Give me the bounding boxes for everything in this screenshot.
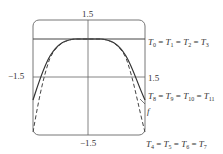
series-f <box>33 39 145 100</box>
legend-f: f <box>147 106 150 116</box>
series-t4-t7 <box>33 39 145 132</box>
plot-frame <box>33 20 145 135</box>
x-right-tick-label: 1.5 <box>148 73 159 83</box>
x-left-tick-label: −1.5 <box>8 71 24 81</box>
plot-area <box>0 0 223 154</box>
legend-t0-t3: T0 = T1 = T2 = T3 <box>148 37 209 50</box>
legend-t4-t7: T4 = T5 = T6 = T7 <box>146 139 207 152</box>
y-bottom-tick-label: −1.5 <box>80 138 96 148</box>
y-top-tick-label: 1.5 <box>82 9 93 19</box>
legend-t8-t11: T8 = T9 = T10 = T11 <box>148 91 215 104</box>
